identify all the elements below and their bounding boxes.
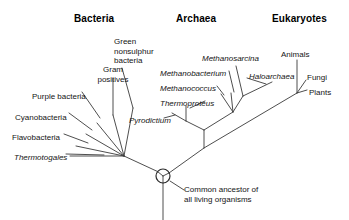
heading-archaea: Archaea	[176, 14, 216, 24]
taxon-label-fungi: Fungi	[307, 73, 327, 83]
branch-to-eukaryotes	[204, 93, 297, 148]
leader-cyanobacteria	[69, 113, 92, 130]
root-to-archaea-eukaryote-branch	[169, 148, 204, 173]
taxon-label-pyrodictium: Pyrodictium	[129, 116, 171, 126]
heading-eukaryotes: Eukaryotes	[272, 14, 327, 24]
taxon-label-cyanobacteria: Cyanobacteria	[15, 113, 67, 123]
taxon-label-methanosarcina: Methanosarcina	[202, 54, 259, 64]
taxon-label-methanobacterium: Methanobacterium	[160, 69, 226, 79]
leader-flavobacteria	[64, 134, 88, 143]
leader-methanobacterium	[229, 71, 234, 92]
taxon-label-gram-positives: Grampositives	[93, 65, 133, 84]
root-to-bacteria-branch	[124, 156, 158, 172]
root-node-spoke-upleft	[158, 172, 164, 177]
taxon-label-thermotogales: Thermotogales	[14, 153, 67, 163]
annotation-common-ancestor: Common ancestor of all living organisms	[184, 185, 258, 204]
branch-cyanobacteria	[86, 134, 124, 156]
taxon-label-animals: Animals	[281, 50, 309, 60]
annotation-common-ancestor-line2: all living organisms	[184, 195, 258, 205]
taxon-label-plants: Plants	[309, 88, 331, 98]
branch-methanosarcina-lower	[233, 96, 243, 112]
leader-common-ancestor	[170, 181, 184, 190]
taxon-label-methanococcus: Methanococcus	[160, 84, 216, 94]
root-node-spoke-upright	[163, 173, 169, 176]
taxon-label-thermoproteus: Thermoproteus	[160, 99, 214, 109]
taxon-label-purple-bacteria: Purple bacteria	[32, 92, 86, 102]
leader-thermotogales	[66, 154, 104, 155]
archaea-left-arm	[186, 121, 204, 130]
taxon-label-haloarchaea: Haloarchaea	[249, 72, 294, 82]
branch-pyrodictium	[172, 113, 186, 121]
annotation-common-ancestor-line1: Common ancestor of	[184, 185, 258, 195]
taxon-label-green-nonsulphur-bacteria: Greennonsulphurbacteria	[114, 37, 162, 66]
tree-branches-svg	[0, 0, 349, 220]
taxon-label-flavobacteria: Flavobacteria	[12, 133, 60, 143]
phylogenetic-tree-figure: Bacteria Archaea Eukaryotes Purple bacte…	[0, 0, 349, 220]
archaea-right-arm	[204, 112, 233, 130]
heading-bacteria: Bacteria	[74, 14, 114, 24]
branch-methanosarcina	[236, 66, 243, 96]
leader-methanococcus	[217, 86, 224, 95]
branch-haloarchaea	[243, 82, 272, 96]
